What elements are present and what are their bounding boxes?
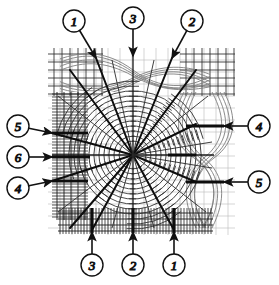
callout-number-label: 3 [129, 11, 137, 26]
callout-number-label: 2 [189, 14, 196, 29]
callout-number-label: 2 [130, 258, 137, 273]
callout-number-label: 4 [15, 181, 22, 196]
technical-diagram: 13232156445 [0, 0, 279, 285]
callout-number-label: 4 [256, 119, 263, 134]
callout-number-label: 1 [71, 14, 78, 29]
callout-number-label: 5 [256, 175, 263, 190]
callout-number-label: 3 [88, 258, 96, 273]
callout-number-label: 1 [171, 258, 178, 273]
callout-number-label: 6 [15, 150, 22, 165]
callout-number-label: 5 [15, 119, 22, 134]
figure-canvas: 13232156445 [0, 0, 279, 285]
